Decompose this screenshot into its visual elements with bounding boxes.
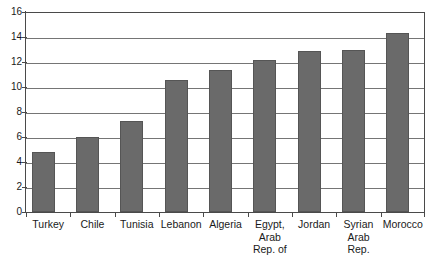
- x-axis-tick-mark: [292, 213, 293, 217]
- x-axis-tick-mark: [381, 213, 382, 217]
- y-axis-tick-label: 4: [2, 157, 22, 167]
- bar-slot: [342, 12, 365, 212]
- y-axis-tick-label: 16: [2, 7, 22, 17]
- x-axis-tick-mark: [203, 213, 204, 217]
- x-axis-tick-mark: [26, 213, 27, 217]
- x-axis-tick-mark: [336, 213, 337, 217]
- x-axis-category-label-line: Rep. of: [241, 243, 299, 256]
- x-axis-category-label: Morocco: [374, 218, 432, 231]
- bar-slot: [253, 12, 276, 212]
- y-axis-tick-label: 8: [2, 107, 22, 117]
- bar[interactable]: [253, 60, 276, 213]
- bar[interactable]: [120, 121, 143, 212]
- bar-slot: [209, 12, 232, 212]
- bar[interactable]: [386, 33, 409, 212]
- bar-slot: [32, 12, 55, 212]
- bar-chart-figure: 1614121086420 TurkeyChileTunisiaLebanonA…: [0, 0, 434, 262]
- x-axis-category-label-line: Arab: [241, 231, 299, 244]
- x-axis-tick-mark: [424, 213, 425, 217]
- y-axis-tick-label: 12: [2, 57, 22, 67]
- bar[interactable]: [165, 80, 188, 213]
- x-axis-tick-marks: [26, 213, 425, 217]
- bar[interactable]: [32, 152, 55, 212]
- x-axis-category-label-line: Morocco: [374, 218, 432, 231]
- x-axis-category-label-line: Arab: [329, 231, 387, 244]
- x-axis-tick-mark: [248, 213, 249, 217]
- bar-slot: [298, 12, 321, 212]
- bar[interactable]: [76, 137, 99, 212]
- bar-slot: [165, 12, 188, 212]
- y-axis-tick-label: 0: [2, 207, 22, 217]
- x-axis-tick-mark: [115, 213, 116, 217]
- bar-slot: [76, 12, 99, 212]
- x-axis-category-labels: TurkeyChileTunisiaLebanonAlgeriaEgypt,Ar…: [26, 218, 425, 262]
- x-axis-category-label-line: Rep.: [329, 243, 387, 256]
- x-axis-tick-mark: [159, 213, 160, 217]
- y-axis-tick-label: 14: [2, 32, 22, 42]
- bar-slot: [386, 12, 409, 212]
- bar-slot: [120, 12, 143, 212]
- y-axis-tick-label: 10: [2, 82, 22, 92]
- y-axis-tick-label: 6: [2, 132, 22, 142]
- bar[interactable]: [209, 70, 232, 213]
- bar[interactable]: [342, 50, 365, 213]
- bar[interactable]: [298, 51, 321, 212]
- x-axis-tick-mark: [70, 213, 71, 217]
- y-axis-tick-labels: 1614121086420: [0, 12, 22, 212]
- y-axis-tick-label: 2: [2, 182, 22, 192]
- bars-container: [26, 12, 425, 212]
